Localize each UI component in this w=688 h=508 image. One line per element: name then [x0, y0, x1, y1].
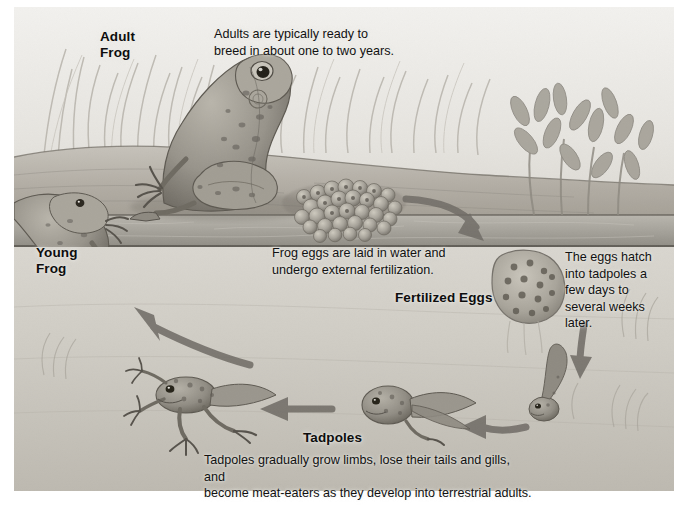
diagram-canvas: Adult Frog Young Frog Fertilized Eggs Ta… [0, 0, 688, 508]
caption-adult-frog: Adults are typically ready to breed in a… [214, 26, 464, 59]
label-tadpoles: Tadpoles [303, 430, 362, 446]
label-young-frog: Young Frog [36, 245, 78, 276]
caption-tadpoles: Tadpoles gradually grow limbs, lose thei… [204, 452, 534, 502]
label-fertilized-eggs: Fertilized Eggs [395, 290, 493, 306]
label-adult-frog: Adult Frog [100, 29, 135, 60]
caption-eggs-hatch: The eggs hatch into tadpoles a few days … [565, 249, 665, 332]
caption-frog-eggs: Frog eggs are laid in water and undergo … [272, 245, 522, 278]
